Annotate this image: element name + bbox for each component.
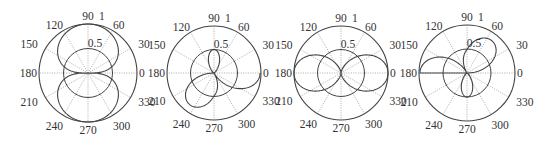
theta-label-300: 300 bbox=[365, 118, 383, 130]
theta-label-270: 270 bbox=[205, 122, 223, 134]
theta-label-180: 180 bbox=[148, 67, 166, 79]
r-label-0.5: 0.5 bbox=[341, 38, 356, 50]
theta-label-0: 0 bbox=[517, 67, 523, 79]
theta-label-60: 60 bbox=[492, 20, 504, 32]
theta-label-300: 300 bbox=[238, 118, 256, 130]
theta-label-240: 240 bbox=[173, 118, 191, 130]
polar-plot-1: 030609012015018021024027030033010.5 bbox=[20, 10, 156, 136]
theta-label-210: 210 bbox=[400, 96, 418, 108]
theta-label-60: 60 bbox=[365, 21, 377, 33]
theta-label-150: 150 bbox=[148, 39, 166, 51]
theta-label-0: 0 bbox=[390, 67, 396, 79]
theta-label-90: 90 bbox=[82, 10, 94, 22]
r-label-1: 1 bbox=[99, 10, 105, 22]
theta-label-150: 150 bbox=[21, 38, 39, 50]
theta-label-120: 120 bbox=[425, 20, 443, 32]
theta-label-210: 210 bbox=[21, 96, 39, 108]
theta-label-30: 30 bbox=[516, 39, 528, 51]
r-label-0.5: 0.5 bbox=[88, 37, 103, 49]
theta-label-240: 240 bbox=[425, 119, 443, 131]
theta-label-270: 270 bbox=[79, 124, 97, 136]
theta-label-210: 210 bbox=[148, 95, 166, 107]
theta-label-90: 90 bbox=[335, 12, 347, 24]
theta-label-240: 240 bbox=[46, 120, 64, 132]
theta-label-30: 30 bbox=[262, 39, 274, 51]
polar-plots-figure: 030609012015018021024027030033010.5 0306… bbox=[0, 0, 546, 146]
theta-label-270: 270 bbox=[458, 123, 476, 135]
polar-plot-4: 030609012015018021024027030033010.5 bbox=[400, 11, 534, 135]
theta-label-120: 120 bbox=[46, 19, 64, 31]
theta-label-330: 330 bbox=[516, 96, 534, 108]
theta-label-60: 60 bbox=[113, 19, 125, 31]
polar-plot-2: 030609012015018021024027030033010.5 bbox=[148, 12, 280, 134]
theta-label-150: 150 bbox=[275, 39, 293, 51]
theta-label-90: 90 bbox=[461, 11, 473, 23]
theta-label-0: 0 bbox=[139, 67, 145, 79]
r-label-1: 1 bbox=[225, 12, 231, 24]
theta-label-210: 210 bbox=[275, 95, 293, 107]
theta-label-270: 270 bbox=[332, 122, 350, 134]
theta-label-60: 60 bbox=[238, 21, 250, 33]
theta-label-180: 180 bbox=[400, 67, 418, 79]
r-label-0.5: 0.5 bbox=[214, 38, 229, 50]
theta-label-120: 120 bbox=[173, 21, 191, 33]
polar-plot-3: 030609012015018021024027030033010.5 bbox=[275, 12, 407, 134]
theta-label-300: 300 bbox=[492, 119, 510, 131]
theta-label-90: 90 bbox=[208, 12, 220, 24]
theta-label-240: 240 bbox=[300, 118, 318, 130]
theta-label-180: 180 bbox=[20, 67, 38, 79]
r-label-1: 1 bbox=[352, 12, 358, 24]
theta-label-0: 0 bbox=[263, 67, 269, 79]
theta-label-300: 300 bbox=[113, 120, 131, 132]
r-label-1: 1 bbox=[478, 11, 484, 23]
theta-label-150: 150 bbox=[400, 39, 418, 51]
theta-label-120: 120 bbox=[300, 21, 318, 33]
theta-label-180: 180 bbox=[275, 67, 293, 79]
r-label-0.5: 0.5 bbox=[467, 37, 482, 49]
